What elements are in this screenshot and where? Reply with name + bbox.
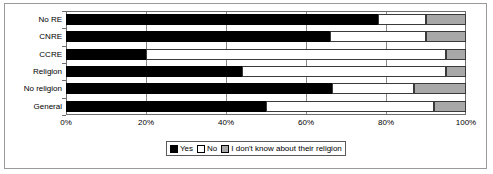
legend-swatch-dk-icon	[221, 145, 229, 153]
bar-segment-dk	[446, 49, 466, 60]
bar-segment-no	[146, 49, 446, 60]
y-axis-tick	[62, 115, 66, 116]
legend-item: I don't know about their religion	[221, 144, 341, 153]
x-axis-tick-label: 20%	[126, 118, 166, 127]
y-axis-label-cnre: CNRE	[0, 28, 62, 45]
x-axis-tick-label: 0%	[46, 118, 86, 127]
bar-segment-dk	[434, 101, 466, 112]
bar-segment-dk	[446, 66, 466, 77]
y-axis-label-no-re: No RE	[0, 11, 62, 28]
stacked-bar	[66, 101, 466, 112]
bar-row	[66, 80, 466, 97]
stacked-bar	[66, 49, 466, 60]
bar-segment-yes	[66, 14, 378, 25]
y-axis-label-no-religion: No religion	[0, 80, 62, 97]
bar-segment-yes	[66, 49, 146, 60]
bar-row	[66, 11, 466, 28]
legend-swatch-yes-icon	[170, 145, 178, 153]
bar-row	[66, 98, 466, 115]
bar-segment-no	[266, 101, 434, 112]
stacked-bar	[66, 14, 466, 25]
legend-swatch-no-icon	[197, 145, 205, 153]
bar-segment-yes	[66, 66, 242, 77]
stacked-bar	[66, 31, 466, 42]
bar-row	[66, 28, 466, 45]
bar-segment-dk	[426, 14, 466, 25]
bar-segment-dk	[414, 83, 466, 94]
legend-label: Yes	[180, 144, 193, 153]
x-axis-labels: 0%20%40%60%80%100%	[0, 118, 493, 132]
bar-segment-dk	[426, 31, 466, 42]
bar-row	[66, 46, 466, 63]
bars-layer	[66, 11, 466, 115]
stacked-bar	[66, 83, 466, 94]
x-axis-tick-label: 40%	[206, 118, 246, 127]
y-axis-labels: No RECNRECCREReligionNo religionGeneral	[0, 11, 62, 115]
bar-segment-no	[378, 14, 426, 25]
x-axis-tick-label: 80%	[366, 118, 406, 127]
stacked-bar	[66, 66, 466, 77]
bar-segment-yes	[66, 31, 330, 42]
legend-label: No	[207, 144, 217, 153]
y-axis-label-religion: Religion	[0, 63, 62, 80]
y-axis-label-ccre: CCRE	[0, 46, 62, 63]
bar-segment-no	[332, 83, 414, 94]
bar-segment-yes	[66, 83, 332, 94]
chart-container: No RECNRECCREReligionNo religionGeneral …	[0, 0, 493, 174]
bar-segment-no	[242, 66, 446, 77]
x-axis-tick-label: 60%	[286, 118, 326, 127]
chart-legend: YesNoI don't know about their religion	[166, 141, 346, 156]
legend-item: No	[197, 144, 217, 153]
bar-segment-yes	[66, 101, 266, 112]
bar-segment-no	[330, 31, 426, 42]
legend-item: Yes	[170, 144, 193, 153]
legend-label: I don't know about their religion	[231, 144, 341, 153]
y-axis-label-general: General	[0, 98, 62, 115]
x-axis-tick-label: 100%	[446, 118, 486, 127]
bar-row	[66, 63, 466, 80]
